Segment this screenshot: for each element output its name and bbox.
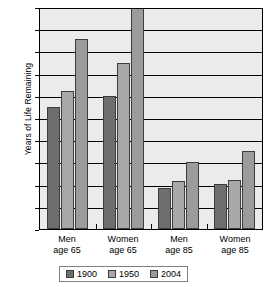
bar (172, 181, 185, 229)
legend-item: 1900 (66, 269, 97, 279)
legend: 190019502004 (59, 266, 188, 282)
y-tick-mark (35, 97, 39, 98)
legend-swatch-icon (108, 270, 116, 278)
bar (75, 39, 88, 229)
bar-group (151, 9, 207, 229)
bar-group (207, 9, 263, 229)
bar-chart: Years of Life Remaining 2018161412108642… (0, 0, 269, 287)
x-axis-label-line1: Men (151, 234, 207, 245)
x-axis-label-line1: Men (39, 234, 95, 245)
plot-wrap: 20181614121086420 (39, 8, 263, 230)
legend-item: 1950 (108, 269, 139, 279)
x-axis-label-line2: age 65 (95, 245, 151, 256)
legend-label: 2004 (161, 269, 181, 279)
y-tick-mark (35, 75, 39, 76)
legend-swatch-icon (150, 270, 158, 278)
y-tick-mark (35, 163, 39, 164)
bar-groups (40, 9, 262, 229)
bar (186, 162, 199, 229)
x-axis-label-line2: age 65 (39, 245, 95, 256)
bar (61, 91, 74, 229)
legend-item: 2004 (150, 269, 181, 279)
bar (158, 188, 171, 229)
bar (47, 107, 60, 229)
y-tick-mark (35, 119, 39, 120)
x-axis-label: Womenage 85 (207, 234, 263, 256)
bar (242, 151, 255, 229)
y-tick-mark (35, 141, 39, 142)
y-tick-mark (35, 230, 39, 231)
x-axis-label: Womenage 65 (95, 234, 151, 256)
y-tick-mark (35, 30, 39, 31)
y-tick-mark (35, 186, 39, 187)
x-axis-label-line1: Women (95, 234, 151, 245)
bar-group (96, 9, 152, 229)
legend-swatch-icon (66, 270, 74, 278)
y-tick-mark (35, 52, 39, 53)
x-axis-label-line2: age 85 (207, 245, 263, 256)
x-axis-labels: Menage 65Womenage 65Menage 85Womenage 85 (39, 234, 263, 256)
y-axis-title: Years of Life Remaining (23, 29, 33, 189)
x-axis-label: Menage 65 (39, 234, 95, 256)
x-axis-label-line2: age 85 (151, 245, 207, 256)
legend-label: 1900 (77, 269, 97, 279)
bar (131, 8, 144, 229)
plot-area (39, 8, 263, 230)
x-axis-label-line1: Women (207, 234, 263, 245)
bar (117, 63, 130, 230)
y-tick-mark (35, 8, 39, 9)
bar (214, 184, 227, 230)
bar-group (40, 9, 96, 229)
bar (103, 96, 116, 229)
bar (228, 180, 241, 229)
legend-label: 1950 (119, 269, 139, 279)
y-tick-mark (35, 208, 39, 209)
x-axis-label: Menage 85 (151, 234, 207, 256)
